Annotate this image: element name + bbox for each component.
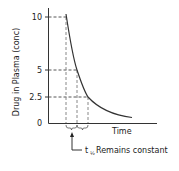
half-life-bracket-2	[77, 125, 88, 130]
y-tick-5: 5	[37, 66, 42, 75]
half-life-bracket-1	[66, 125, 77, 130]
x-axis-label: Time	[111, 127, 132, 136]
half-life-diagram: Drug in Plasma (conc) 10 5 2.5 0 Time t …	[0, 0, 179, 171]
decay-curve	[66, 14, 132, 118]
annotation-subscript: ½	[90, 150, 95, 156]
y-tick-10: 10	[32, 13, 42, 22]
y-tick-2-5: 2.5	[29, 93, 42, 102]
y-axis-label: Drug in Plasma (conc)	[12, 28, 21, 116]
annotation-t: t	[85, 146, 88, 155]
arrow-head-icon	[70, 132, 74, 137]
annotation-text: Remains constant	[96, 146, 168, 155]
y-tick-0: 0	[37, 119, 42, 128]
